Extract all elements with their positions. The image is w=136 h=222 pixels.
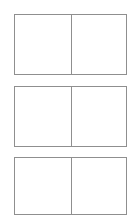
frame-1-pane-right[interactable] [71, 15, 127, 74]
frame-3-pane-right[interactable] [71, 158, 127, 214]
page-canvas [0, 0, 136, 222]
frame-1[interactable] [14, 14, 127, 75]
frame-3[interactable] [14, 157, 127, 215]
frame-2-pane-left[interactable] [15, 87, 71, 146]
frame-3-pane-left[interactable] [15, 158, 71, 214]
frame-1-pane-left[interactable] [15, 15, 71, 74]
frame-2-pane-right[interactable] [71, 87, 127, 146]
frame-2[interactable] [14, 86, 127, 147]
